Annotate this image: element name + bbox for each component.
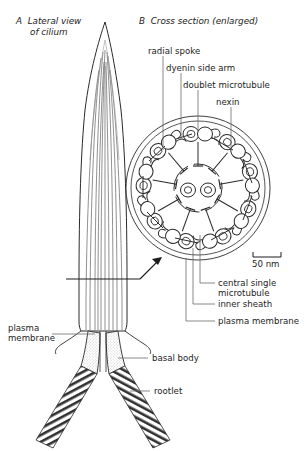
label-rootlet: rootlet: [154, 386, 182, 396]
label-central-single-microtubule-line1: central single: [218, 278, 276, 288]
label-dyenin-side-arm: dyenin side arm: [166, 63, 235, 73]
panel-b-letter: B: [139, 16, 145, 26]
cross-section-drawing: [126, 116, 270, 260]
rootlet-right: [109, 366, 170, 448]
cilium-figure: A Lateral view of cilium B Cross section…: [0, 0, 306, 451]
panel-a-title-line2: of cilium: [16, 27, 68, 37]
label-inner-sheath: inner sheath: [218, 299, 272, 309]
panel-a-title-line1: Lateral view: [28, 16, 82, 26]
label-nexin: nexin: [216, 97, 240, 107]
section-arrow-head: [152, 257, 162, 265]
label-doublet-microtubule: doublet microtubule: [183, 80, 270, 90]
leader-plasma-membrane-cross: [186, 258, 215, 321]
panel-b-heading: B Cross section (enlarged): [139, 16, 258, 27]
label-plasma-membrane-lateral-line2: membrane: [8, 333, 55, 343]
membrane-skirt-right: [125, 331, 151, 354]
membrane-skirt-left: [55, 331, 81, 354]
label-radial-spoke: radial spoke: [148, 46, 200, 56]
rootlet-left: [36, 366, 97, 448]
scale-bar: [253, 252, 281, 257]
panel-a-letter: A: [16, 16, 22, 26]
label-basal-body: basal body: [152, 353, 199, 363]
scale-bar-label: 50 nm: [252, 259, 280, 269]
label-plasma-membrane-lateral-line1: plasma: [8, 323, 39, 333]
panel-a-heading: A Lateral view of cilium: [16, 16, 81, 37]
label-central-single-microtubule-line2: microtubule: [218, 288, 269, 298]
label-central-single-microtubule: central single microtubule: [218, 278, 276, 298]
figure-artwork: [0, 0, 306, 451]
label-plasma-membrane-lateral: plasma membrane: [8, 323, 55, 343]
panel-b-title-line1: Cross section (enlarged): [151, 16, 258, 26]
label-plasma-membrane-cross: plasma membrane: [218, 316, 299, 326]
